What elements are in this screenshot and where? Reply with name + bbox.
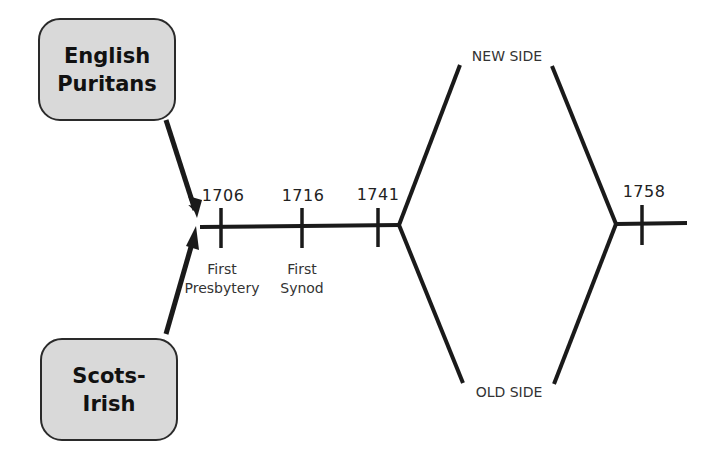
year-label-1758: 1758 (622, 182, 666, 201)
year-label-1741: 1741 (356, 185, 400, 204)
source-box-scots-irish: Scots- Irish (40, 338, 178, 441)
branch-old-side-right (554, 224, 616, 384)
source-label-scots-irish: Scots- Irish (72, 362, 145, 418)
arrow-english-puritans (166, 120, 195, 210)
event-label-first-presbytery: First Presbytery (182, 260, 262, 298)
timeline-reunion (616, 223, 687, 224)
year-label-1716: 1716 (281, 186, 325, 205)
source-box-english-puritans: English Puritans (38, 18, 176, 121)
diagram-canvas: English Puritans Scots- Irish 1706 1716 … (0, 0, 722, 454)
branch-label-old-side: OLD SIDE (464, 384, 554, 400)
branch-new-side-right (552, 66, 616, 224)
event-label-first-synod: First Synod (272, 260, 332, 298)
branch-label-new-side: NEW SIDE (462, 48, 552, 64)
branch-old-side-left (399, 225, 463, 383)
year-label-1706: 1706 (201, 186, 245, 205)
timeline-main (200, 225, 399, 227)
arrowhead-icon (186, 226, 199, 250)
branch-new-side-left (399, 65, 460, 225)
arrowhead-icon (188, 196, 202, 218)
source-label-english-puritans: English Puritans (57, 42, 157, 98)
